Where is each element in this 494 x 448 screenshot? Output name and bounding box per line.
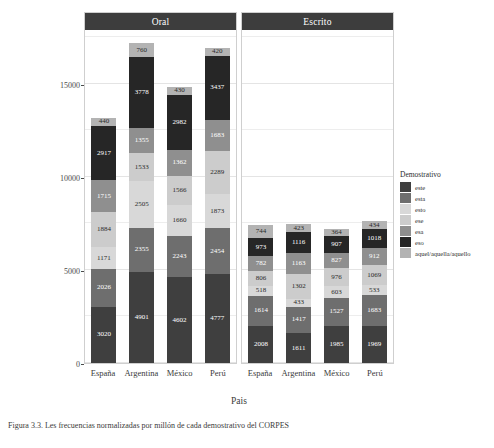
- bar-segment-ese[interactable]: 1302: [286, 274, 311, 298]
- bar-segment-ese[interactable]: 1533: [129, 153, 154, 182]
- x-tick-label-méxico: México: [167, 368, 193, 378]
- bar-segment-esto[interactable]: 603: [324, 286, 349, 297]
- facet-strip-label-oral: Oral: [85, 13, 236, 30]
- x-tick-label-perú: Perú: [367, 368, 383, 378]
- bar-segment-esa[interactable]: 827: [324, 253, 349, 268]
- legend-item-esta[interactable]: esta: [400, 193, 492, 203]
- figure-container: Oral 30202026117118841715291744049012355…: [0, 0, 494, 448]
- bar-segment-ese[interactable]: 1884: [91, 212, 116, 247]
- facet-strip-label-escrito: Escrito: [242, 13, 393, 30]
- bar-group-escrito: 2008161451880678297374416111417433130211…: [242, 30, 393, 363]
- legend-item-aquel[interactable]: aquel/aquella/aquello: [400, 248, 492, 258]
- bar-segment-aquel[interactable]: 760: [129, 43, 154, 57]
- y-tick-mark: [81, 271, 84, 272]
- bar-segment-esto[interactable]: 1171: [91, 247, 116, 269]
- legend-item-esto[interactable]: esto: [400, 204, 492, 214]
- bar-segment-este[interactable]: 4602: [167, 277, 192, 363]
- bar-segment-esa[interactable]: 1683: [205, 120, 230, 151]
- bar-segment-este[interactable]: 1969: [362, 326, 387, 363]
- bar-segment-esa[interactable]: 1355: [129, 128, 154, 153]
- panel-oral: 3020202611711884171529174404901235525051…: [85, 30, 236, 363]
- y-tick-mark: [81, 178, 84, 179]
- bar-segment-eso[interactable]: 3778: [129, 57, 154, 127]
- bar-segment-ese[interactable]: 976: [324, 268, 349, 286]
- bar-argentina[interactable]: 490123552505153313553778760: [129, 43, 154, 363]
- bar-segment-esta[interactable]: 2454: [205, 228, 230, 274]
- legend-swatch: [400, 182, 411, 192]
- bar-segment-aquel[interactable]: 744: [248, 225, 273, 239]
- bar-segment-este[interactable]: 1985: [324, 326, 349, 363]
- bar-segment-eso[interactable]: 1018: [362, 229, 387, 248]
- bar-segment-esta[interactable]: 1417: [286, 307, 311, 333]
- bar-segment-esto[interactable]: 533: [362, 285, 387, 295]
- facet-oral: Oral 30202026117118841715291744049012355…: [84, 12, 237, 364]
- bar-segment-esto[interactable]: 433: [286, 299, 311, 307]
- bar-segment-eso[interactable]: 1116: [286, 232, 311, 253]
- x-tick-label-perú: Perú: [210, 368, 226, 378]
- bar-segment-aquel[interactable]: 430: [167, 87, 192, 95]
- bar-group-oral: 3020202611711884171529174404901235525051…: [85, 30, 236, 363]
- bar-segment-esta[interactable]: 1614: [248, 296, 273, 326]
- bar-segment-eso[interactable]: 2982: [167, 95, 192, 150]
- bar-segment-ese[interactable]: 1069: [362, 265, 387, 285]
- figure-caption: Figura 3.3. Les frecuencias normalizadas…: [8, 421, 486, 431]
- legend-label: este: [415, 184, 425, 191]
- bar-segment-este[interactable]: 4901: [129, 272, 154, 363]
- bar-segment-esto[interactable]: 518: [248, 286, 273, 296]
- bar-segment-este[interactable]: 3020: [91, 307, 116, 363]
- legend-item-ese[interactable]: ese: [400, 215, 492, 225]
- bar-segment-esta[interactable]: 1683: [362, 295, 387, 326]
- legend-label: esta: [415, 195, 425, 202]
- legend-item-eso[interactable]: eso: [400, 237, 492, 247]
- bar-méxico[interactable]: 19851527603976827907364: [324, 229, 349, 363]
- bar-segment-esto[interactable]: 2505: [129, 181, 154, 228]
- bar-argentina[interactable]: 16111417433130211631116423: [286, 224, 311, 363]
- legend-item-este[interactable]: este: [400, 182, 492, 192]
- legend-item-esa[interactable]: esa: [400, 226, 492, 236]
- x-tick-label-españa: España: [91, 368, 116, 378]
- y-tick-mark: [81, 364, 84, 365]
- legend-label: ese: [415, 217, 423, 224]
- bar-segment-este[interactable]: 1611: [286, 333, 311, 363]
- y-tick-label: 10000: [60, 173, 80, 182]
- bar-segment-este[interactable]: 2008: [248, 326, 273, 363]
- bar-segment-esa[interactable]: 1715: [91, 180, 116, 212]
- panel-escrito: 2008161451880678297374416111417433130211…: [242, 30, 393, 363]
- plot-area: Oral 30202026117118841715291744049012355…: [84, 12, 394, 364]
- y-tick-label: 15000: [60, 80, 80, 89]
- y-tick-label: 0: [76, 360, 80, 369]
- legend-title: Demostrativo: [400, 170, 492, 179]
- bar-segment-aquel[interactable]: 434: [362, 221, 387, 229]
- bar-segment-esta[interactable]: 2355: [129, 228, 154, 272]
- bar-segment-esa[interactable]: 1362: [167, 150, 192, 175]
- bar-segment-esta[interactable]: 2243: [167, 236, 192, 278]
- bar-segment-aquel[interactable]: 440: [91, 118, 116, 126]
- bar-segment-eso[interactable]: 3437: [205, 56, 230, 120]
- bar-españa[interactable]: 20081614518806782973744: [248, 225, 273, 364]
- bar-segment-ese[interactable]: 1566: [167, 176, 192, 205]
- bar-segment-esta[interactable]: 2026: [91, 269, 116, 307]
- bar-segment-esta[interactable]: 1527: [324, 298, 349, 326]
- bar-segment-esa[interactable]: 912: [362, 248, 387, 265]
- bar-segment-eso[interactable]: 2917: [91, 126, 116, 180]
- legend-label: esa: [415, 228, 423, 235]
- bar-segment-eso[interactable]: 907: [324, 236, 349, 253]
- bar-segment-esto[interactable]: 1873: [205, 194, 230, 229]
- bar-segment-esto[interactable]: 1660: [167, 205, 192, 236]
- bar-segment-aquel[interactable]: 423: [286, 224, 311, 232]
- bar-méxico[interactable]: 460222431660156613622982430: [167, 87, 192, 363]
- bar-segment-ese[interactable]: 806: [248, 271, 273, 286]
- bar-segment-esa[interactable]: 782: [248, 256, 273, 271]
- bar-segment-ese[interactable]: 2289: [205, 151, 230, 194]
- bar-segment-este[interactable]: 4777: [205, 274, 230, 363]
- y-tick-label: 5000: [64, 266, 80, 275]
- bar-segment-aquel[interactable]: 420: [205, 48, 230, 56]
- bar-perú[interactable]: 1969168353310699121018434: [362, 221, 387, 363]
- bar-segment-esa[interactable]: 1163: [286, 253, 311, 275]
- bar-segment-aquel[interactable]: 364: [324, 229, 349, 236]
- bar-perú[interactable]: 477724541873228916833437420: [205, 48, 230, 363]
- legend-swatch: [400, 237, 411, 247]
- bar-segment-eso[interactable]: 973: [248, 238, 273, 256]
- bar-españa[interactable]: 302020261171188417152917440: [91, 118, 116, 363]
- y-tick-mark: [81, 85, 84, 86]
